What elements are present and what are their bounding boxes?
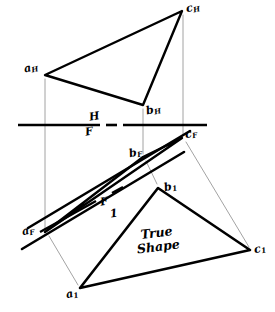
point-label-a-h: aH [23,61,39,76]
label-subscript: H [153,106,162,116]
point-label-a-1: a1 [65,287,79,301]
aux-projector-c [186,142,249,247]
horizontal-projection-triangle [45,11,182,105]
fold-line-label-h: H [88,110,100,123]
point-label-c-f: cF [184,127,198,141]
drawing-sheet: aH bH cH aF bF cF a1 b1 c1 H F F 1 True … [0,0,275,312]
point-label-a-f: aF [21,224,35,238]
point-label-b-f: bF [128,146,143,160]
label-subscript: H [192,4,201,14]
fold-line-label-f1-top: F [99,195,109,207]
point-label-c-h: cH [185,1,201,15]
point-label-b-h: bH [145,103,162,118]
point-label-b-1: b1 [163,180,178,194]
aux-projector-a [49,236,78,285]
true-shape-annotation: True Shape [134,223,180,256]
fold-line-label-f: F [84,125,94,137]
fold-line-label-f1-bottom: 1 [109,208,118,220]
point-label-c-1: c1 [253,242,267,256]
